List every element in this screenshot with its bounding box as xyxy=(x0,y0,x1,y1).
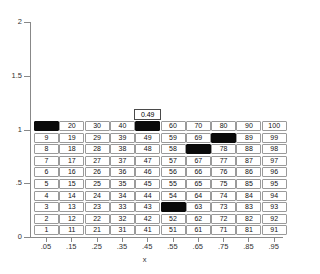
grid-cell[interactable]: 21 xyxy=(85,225,110,235)
grid-cell[interactable]: 92 xyxy=(262,214,287,224)
grid-cell[interactable]: 4 xyxy=(34,191,59,201)
grid-cell[interactable]: 88 xyxy=(236,144,261,154)
grid-cell[interactable]: 54 xyxy=(161,191,186,201)
grid-cell[interactable]: 57 xyxy=(161,156,186,166)
grid-cell[interactable]: 5 xyxy=(34,179,59,189)
grid-cell[interactable]: 46 xyxy=(135,167,160,177)
grid-cell[interactable]: 51 xyxy=(161,225,186,235)
grid-cell[interactable]: 56 xyxy=(161,167,186,177)
grid-cell[interactable]: 11 xyxy=(59,225,84,235)
grid-cell[interactable]: 22 xyxy=(85,214,110,224)
grid-cell[interactable]: 80 xyxy=(211,121,236,131)
grid-cell[interactable]: 12 xyxy=(59,214,84,224)
grid-cell[interactable]: 86 xyxy=(236,167,261,177)
grid-cell[interactable]: 42 xyxy=(135,214,160,224)
grid-cell[interactable]: 64 xyxy=(186,191,211,201)
grid-cell[interactable]: 74 xyxy=(211,191,236,201)
grid-cell[interactable]: 45 xyxy=(135,179,160,189)
grid-cell[interactable]: 93 xyxy=(262,202,287,212)
grid-cell[interactable]: 23 xyxy=(85,202,110,212)
grid-cell[interactable]: 24 xyxy=(85,191,110,201)
grid-cell[interactable]: 82 xyxy=(236,214,261,224)
grid-cell[interactable]: 84 xyxy=(236,191,261,201)
grid-cell[interactable]: 91 xyxy=(262,225,287,235)
grid-cell[interactable]: 40 xyxy=(110,121,135,131)
grid-cell[interactable]: 52 xyxy=(161,214,186,224)
grid-cell[interactable]: 36 xyxy=(110,167,135,177)
grid-cell[interactable]: 26 xyxy=(85,167,110,177)
grid-cell[interactable]: 37 xyxy=(110,156,135,166)
grid-cell[interactable]: 35 xyxy=(110,179,135,189)
grid-cell[interactable]: 39 xyxy=(110,133,135,143)
grid-cell[interactable]: 98 xyxy=(262,144,287,154)
grid-cell[interactable]: 70 xyxy=(186,121,211,131)
grid-cell[interactable]: 3 xyxy=(34,202,59,212)
grid-cell[interactable]: 15 xyxy=(59,179,84,189)
grid-cell[interactable]: 2 xyxy=(34,214,59,224)
grid-cell[interactable]: 75 xyxy=(211,179,236,189)
grid-cell[interactable]: 47 xyxy=(135,156,160,166)
grid-cell[interactable]: 60 xyxy=(161,121,186,131)
grid-cell[interactable]: 90 xyxy=(236,121,261,131)
grid-cell[interactable]: 78 xyxy=(211,144,236,154)
grid-cell[interactable]: 48 xyxy=(135,144,160,154)
grid-cell[interactable]: 25 xyxy=(85,179,110,189)
grid-cell[interactable]: 100 xyxy=(262,121,287,131)
grid-cell[interactable]: 61 xyxy=(186,225,211,235)
grid-cell[interactable]: 44 xyxy=(135,191,160,201)
grid-cell[interactable]: 62 xyxy=(186,214,211,224)
grid-cell[interactable]: 10 xyxy=(34,121,59,131)
grid-cell[interactable]: 85 xyxy=(236,179,261,189)
grid-cell[interactable]: 41 xyxy=(135,225,160,235)
grid-cell[interactable]: 99 xyxy=(262,133,287,143)
grid-cell[interactable]: 55 xyxy=(161,179,186,189)
grid-cell[interactable]: 20 xyxy=(59,121,84,131)
grid-cell[interactable]: 31 xyxy=(110,225,135,235)
grid-cell[interactable]: 66 xyxy=(186,167,211,177)
grid-cell[interactable]: 72 xyxy=(211,214,236,224)
grid-cell[interactable]: 94 xyxy=(262,191,287,201)
grid-cell[interactable]: 59 xyxy=(161,133,186,143)
grid-cell[interactable]: 19 xyxy=(59,133,84,143)
grid-cell[interactable]: 38 xyxy=(110,144,135,154)
grid-cell[interactable]: 87 xyxy=(236,156,261,166)
grid-cell[interactable]: 69 xyxy=(186,133,211,143)
grid-cell[interactable]: 73 xyxy=(211,202,236,212)
grid-cell[interactable]: 1 xyxy=(34,225,59,235)
grid-cell[interactable]: 96 xyxy=(262,167,287,177)
grid-cell[interactable]: 95 xyxy=(262,179,287,189)
grid-cell[interactable]: 81 xyxy=(236,225,261,235)
grid-cell[interactable]: 32 xyxy=(110,214,135,224)
grid-cell[interactable]: 17 xyxy=(59,156,84,166)
grid-cell[interactable]: 49 xyxy=(135,133,160,143)
grid-cell[interactable]: 97 xyxy=(262,156,287,166)
grid-cell[interactable]: 28 xyxy=(85,144,110,154)
grid-cell[interactable]: 76 xyxy=(211,167,236,177)
grid-cell[interactable]: 83 xyxy=(236,202,261,212)
grid-cell[interactable]: 53 xyxy=(161,202,186,212)
grid-cell[interactable]: 13 xyxy=(59,202,84,212)
grid-cell[interactable]: 43 xyxy=(135,202,160,212)
grid-cell[interactable]: 14 xyxy=(59,191,84,201)
grid-cell[interactable]: 33 xyxy=(110,202,135,212)
grid-cell[interactable]: 8 xyxy=(34,144,59,154)
grid-cell[interactable]: 63 xyxy=(186,202,211,212)
grid-cell[interactable]: 68 xyxy=(186,144,211,154)
grid-cell[interactable]: 65 xyxy=(186,179,211,189)
grid-cell[interactable]: 67 xyxy=(186,156,211,166)
grid-cell[interactable]: 18 xyxy=(59,144,84,154)
grid-cell[interactable]: 58 xyxy=(161,144,186,154)
grid-cell[interactable]: 79 xyxy=(211,133,236,143)
grid-cell[interactable]: 30 xyxy=(85,121,110,131)
grid-cell[interactable]: 77 xyxy=(211,156,236,166)
grid-cell[interactable]: 27 xyxy=(85,156,110,166)
grid-cell[interactable]: 29 xyxy=(85,133,110,143)
grid-cell[interactable]: 7 xyxy=(34,156,59,166)
grid-cell[interactable]: 50 xyxy=(135,121,160,131)
grid-cell[interactable]: 71 xyxy=(211,225,236,235)
grid-cell[interactable]: 34 xyxy=(110,191,135,201)
grid-cell[interactable]: 89 xyxy=(236,133,261,143)
grid-cell[interactable]: 6 xyxy=(34,167,59,177)
grid-cell[interactable]: 16 xyxy=(59,167,84,177)
grid-cell[interactable]: 9 xyxy=(34,133,59,143)
